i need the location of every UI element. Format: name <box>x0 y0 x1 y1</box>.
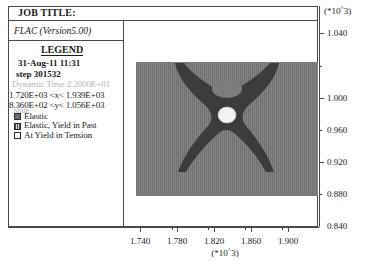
y-tick-minor <box>319 194 322 195</box>
state-swatch-empty-icon <box>14 132 21 139</box>
legend-state-list: Elastic Elastic, Yield in Past At Yield … <box>14 112 96 140</box>
x-tick-label: 1.740 <box>130 236 150 246</box>
legend-step: step 301532 <box>16 69 124 80</box>
y-tick-label: 0.840 <box>327 221 347 231</box>
x-tick-label: 1.820 <box>204 236 224 246</box>
x-axis-exponent-label: (*10^3) <box>211 246 238 258</box>
flac-version-label: FLAC (Version5.00) <box>14 26 91 36</box>
y-tick-major <box>319 98 324 99</box>
y-tick-label: 0.880 <box>327 189 347 199</box>
y-tick-label: 1.040 <box>327 28 347 38</box>
y-tick-label: 1.000 <box>327 93 347 103</box>
y-tick-major <box>319 33 324 34</box>
x-tick-minor <box>282 227 283 230</box>
x-tick-major <box>140 227 141 232</box>
y-tick-minor <box>319 130 322 131</box>
legend-title: LEGEND <box>0 44 124 55</box>
legend-date: 31-Aug-11 11:31 <box>18 58 124 69</box>
y-tick-label: 0.920 <box>327 157 347 167</box>
y-tick-major <box>319 162 324 163</box>
plot-area <box>125 21 318 227</box>
state-label-tension: At Yield in Tension <box>24 131 92 140</box>
y-tick-minor <box>319 66 322 67</box>
x-tick-minor <box>208 227 209 230</box>
state-swatch-hatch-icon <box>14 123 21 130</box>
x-tick-major <box>177 227 178 232</box>
x-tick-major <box>288 227 289 232</box>
plasticity-state-graphic <box>136 62 318 196</box>
tunnel-opening-icon <box>218 107 236 123</box>
x-tick-minor <box>245 227 246 230</box>
x-tick-label: 1.860 <box>241 236 261 246</box>
flac-plot-window: JOB TITLE: FLAC (Version5.00) LEGEND 31-… <box>0 0 372 274</box>
x-tick-minor <box>172 227 173 230</box>
state-swatch-solid-icon <box>14 113 21 120</box>
x-tick-major <box>251 227 252 232</box>
x-tick-label: 1.900 <box>278 236 298 246</box>
job-title-label: JOB TITLE: <box>18 7 76 18</box>
legend-dynamic-time: Dynamic Time 2.2000E+01 <box>12 79 124 90</box>
legend-info-block: 31-Aug-11 11:31 step 301532 Dynamic Time… <box>10 58 124 111</box>
x-axis-line <box>8 227 319 228</box>
x-tick-major <box>214 227 215 232</box>
legend-title-text: LEGEND <box>41 44 83 56</box>
legend-state-item-tension: At Yield in Tension <box>14 131 96 140</box>
x-tick-label: 1.780 <box>167 236 187 246</box>
upper-inner-pocket <box>212 80 242 98</box>
legend-range-x: 1.720E+03 <x< 1.939E+03 <box>9 90 124 101</box>
y-axis-exponent-label: (*10^3) <box>324 4 351 16</box>
y-tick-label: 0.960 <box>327 125 347 135</box>
